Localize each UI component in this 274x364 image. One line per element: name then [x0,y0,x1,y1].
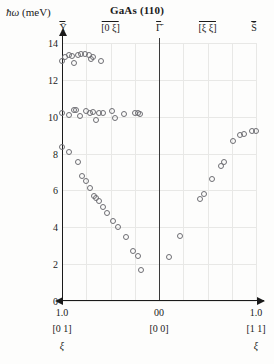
gridline-vertical [135,43,136,301]
data-point [123,234,129,240]
data-point [75,159,81,165]
data-point [59,144,65,150]
x-direction-bracket-2: [1 1] [246,323,265,334]
gridline-horizontal [62,301,256,302]
symmetry-point-labels: Ȳ[0 ξ]Γ̄[ξ ξ]S̄ [0,22,274,38]
data-point [177,233,183,239]
y-tick-label: 0 [53,296,58,307]
x-tick-number-0: 1.0 [56,307,69,318]
data-point [166,254,172,260]
data-point [73,107,79,113]
data-point [135,253,141,259]
data-point [66,149,72,155]
symmetry-label-1: [0 ξ] [101,22,120,33]
gridline-vertical [208,43,209,301]
data-point [115,224,121,230]
page-title: GaAs (110) [0,4,274,16]
y-tick-label: 6 [53,185,58,196]
data-point [112,115,118,121]
symmetry-label-3: [ξ ξ] [198,22,216,33]
data-point [71,60,77,66]
data-point [98,58,104,64]
symmetry-label-4: S̄ [251,22,257,33]
data-point [253,128,259,134]
x-tick-number-3: 1.0 [250,307,263,318]
data-point [87,185,93,191]
data-point [77,113,83,119]
y-tick-label: 10 [48,111,58,122]
gridline-vertical [86,43,87,301]
data-point [201,191,207,197]
data-point [109,108,115,114]
data-point [138,267,144,273]
gridline-vertical [232,43,233,301]
phonon-dispersion-plot: 02468101214 [62,43,256,301]
data-point [110,218,116,224]
data-point [137,111,143,117]
data-point [104,210,110,216]
data-point [66,112,72,118]
x-direction-bracket-0: [0 1] [52,323,71,334]
y-tick-label: 2 [53,259,58,270]
x-tick-number-2: 0 [159,307,164,318]
symmetry-label-2: Γ̄ [156,22,162,33]
y-tick-label: 4 [53,222,58,233]
data-point [121,111,127,117]
gridline-vertical [183,43,184,301]
y-axis [62,35,63,301]
data-point [96,198,102,204]
gridline-vertical [256,43,257,301]
x-axis-symbol-0: ξ [60,340,64,351]
data-point [83,178,89,184]
y-tick-label: 12 [48,74,58,85]
gamma-divider-line [159,38,160,301]
data-point [230,138,236,144]
data-point [209,176,215,182]
x-axis-symbol-1: ξ [254,340,258,351]
data-point [93,117,99,123]
y-tick-label: 8 [53,148,58,159]
gridline-vertical [111,43,112,301]
data-point [100,110,106,116]
data-point [241,131,247,137]
data-point [90,54,96,60]
x-direction-bracket-1: [0 0] [149,323,168,334]
data-point [221,159,227,165]
data-point [59,110,65,116]
y-tick-label: 14 [48,38,58,49]
x-axis [62,300,264,301]
